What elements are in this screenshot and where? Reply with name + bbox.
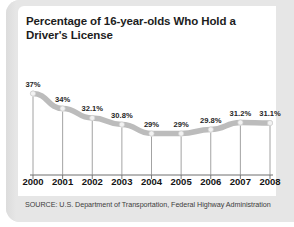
x-axis-label-2007: 2007 [230, 176, 251, 187]
data-point-label: 30.8% [111, 111, 133, 120]
data-point-label: 31.1% [259, 109, 281, 118]
data-point-label: 34% [55, 95, 70, 104]
data-point-marker [208, 127, 213, 132]
data-point-label: 31.2% [230, 109, 252, 118]
data-point-marker [60, 106, 65, 111]
x-axis-label-2000: 2000 [22, 176, 43, 187]
data-point-marker [179, 131, 184, 136]
x-axis-label-2003: 2003 [111, 176, 132, 187]
x-axis-label-2001: 2001 [52, 176, 73, 187]
chart-screenshot: Percentage of 16-year-olds Who Hold a Dr… [0, 0, 294, 227]
x-axis-label-2006: 2006 [200, 176, 221, 187]
data-point-marker [90, 115, 95, 120]
page-title: Percentage of 16-year-olds Who Hold a Dr… [26, 14, 250, 42]
data-point-marker [238, 120, 243, 125]
x-axis-label-2008: 2008 [259, 176, 280, 187]
data-point-label: 29% [144, 120, 159, 129]
data-point-marker [267, 120, 272, 125]
x-axis-label-2005: 2005 [171, 176, 192, 187]
data-point-marker [119, 122, 124, 127]
data-point-label: 32.1% [81, 104, 103, 113]
data-point-label: 29% [174, 120, 189, 129]
source-caption: SOURCE: U.S. Department of Transportatio… [25, 200, 271, 209]
plot-area: 37%34%32.1%30.8%29%29%29.8%31.2%31.1% [18, 60, 276, 180]
x-axis-tick-labels: 200020012002200320042005200620072008 [18, 176, 276, 192]
x-axis-label-2002: 2002 [82, 176, 103, 187]
data-point-marker [30, 91, 35, 96]
data-point-marker [149, 131, 154, 136]
data-point-label: 37% [25, 80, 40, 89]
data-point-label: 29.8% [200, 116, 222, 125]
x-axis-label-2004: 2004 [141, 176, 162, 187]
